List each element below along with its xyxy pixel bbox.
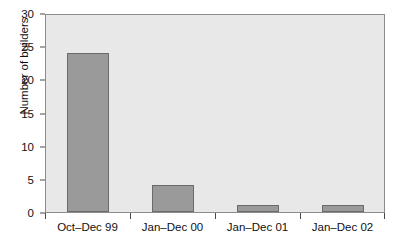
bar bbox=[237, 205, 279, 212]
y-axis-tick-label: 30 bbox=[0, 8, 34, 20]
y-axis-tick-label: 5 bbox=[0, 174, 34, 186]
bars-layer bbox=[46, 15, 384, 212]
plot-area bbox=[45, 14, 385, 213]
bar bbox=[67, 53, 109, 212]
y-axis-tick-label: 25 bbox=[0, 41, 34, 53]
y-axis-tick-label: 15 bbox=[0, 108, 34, 120]
bar-chart: Number of builders 051015202530 Oct–Dec … bbox=[0, 0, 395, 246]
y-axis-tick-labels: 051015202530 bbox=[0, 0, 42, 246]
x-axis-tick-mark bbox=[300, 213, 301, 219]
x-axis-tick-marks bbox=[45, 213, 385, 219]
x-axis-tick-mark bbox=[130, 213, 131, 219]
x-axis-tick-mark bbox=[215, 213, 216, 219]
x-axis-tick-mark bbox=[384, 213, 385, 219]
x-axis-tick-mark bbox=[45, 213, 46, 219]
y-axis-tick-label: 10 bbox=[0, 141, 34, 153]
y-axis-tick-label: 20 bbox=[0, 74, 34, 86]
x-axis-tick-label: Oct–Dec 99 bbox=[57, 221, 118, 233]
bar bbox=[322, 205, 364, 212]
x-axis-tick-label: Jan–Dec 00 bbox=[142, 221, 203, 233]
x-axis-tick-labels: Oct–Dec 99Jan–Dec 00Jan–Dec 01Jan–Dec 02 bbox=[45, 221, 385, 241]
y-axis-tick-label: 0 bbox=[0, 207, 34, 219]
x-axis-tick-label: Jan–Dec 02 bbox=[312, 221, 373, 233]
x-axis-tick-label: Jan–Dec 01 bbox=[227, 221, 288, 233]
bar bbox=[152, 185, 194, 212]
